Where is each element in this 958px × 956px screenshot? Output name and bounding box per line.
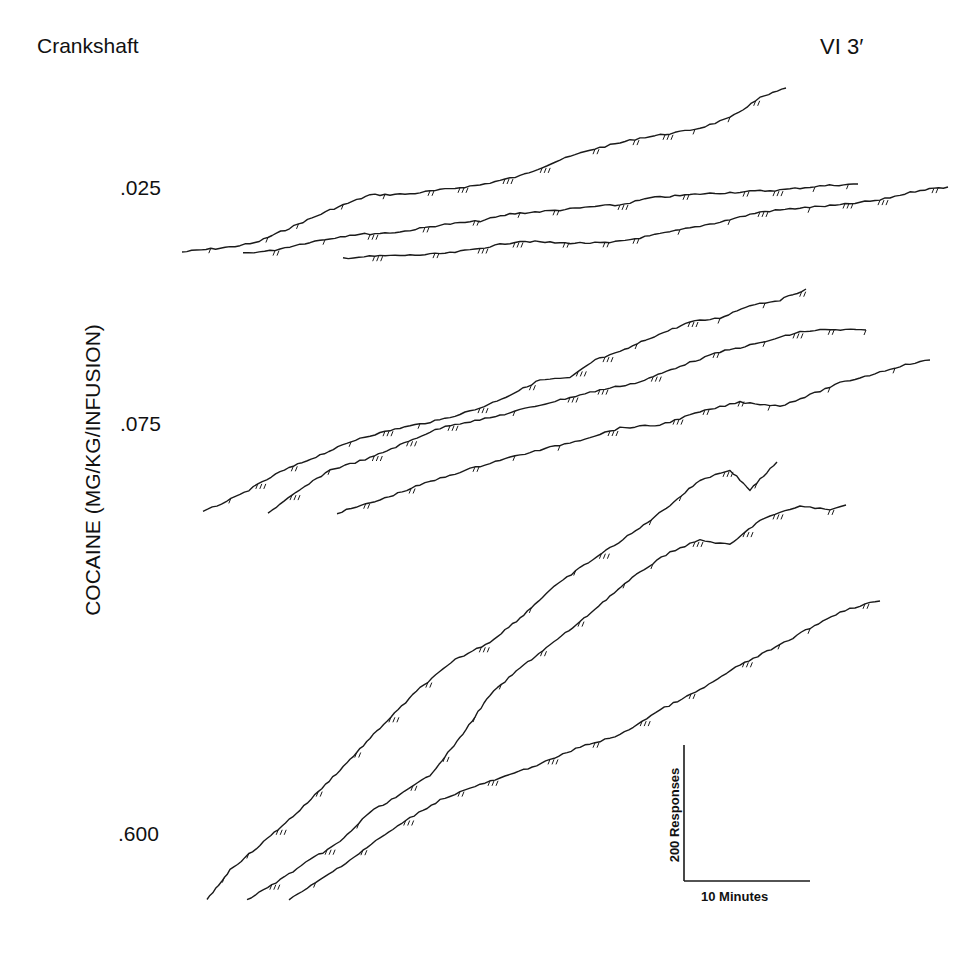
infusion-mark: [687, 195, 689, 200]
infusion-mark: [751, 532, 753, 537]
infusion-mark: [797, 333, 799, 338]
infusion-mark: [677, 420, 679, 425]
infusion-mark: [867, 604, 869, 609]
infusion-mark: [637, 140, 639, 145]
infusion-mark: [486, 408, 488, 413]
dose-label-mid: .075: [120, 412, 161, 436]
record-line: [268, 329, 866, 513]
infusion-mark: [768, 406, 770, 411]
record-line: [207, 462, 777, 900]
infusion-mark: [612, 431, 614, 436]
infusion-mark: [936, 188, 938, 193]
infusion-mark: [637, 239, 639, 244]
infusion-mark: [758, 101, 760, 106]
infusion-mark: [763, 303, 765, 308]
infusion-mark: [701, 542, 703, 547]
infusion-mark: [556, 759, 558, 764]
infusion-mark: [718, 319, 720, 324]
infusion-mark: [329, 850, 331, 855]
infusion-mark: [671, 135, 673, 140]
infusion-mark: [365, 850, 367, 855]
infusion-mark: [412, 821, 414, 826]
infusion-mark: [507, 179, 509, 184]
infusion-mark: [496, 781, 498, 786]
infusion-mark: [558, 446, 560, 451]
infusion-mark: [517, 243, 519, 248]
infusion-mark: [545, 651, 547, 656]
infusion-mark: [697, 542, 699, 547]
infusion-mark: [882, 200, 884, 205]
infusion-mark: [576, 398, 578, 403]
infusion-mark: [781, 514, 783, 519]
infusion-mark: [320, 792, 322, 797]
infusion-mark: [397, 717, 399, 722]
infusion-mark: [377, 256, 379, 261]
infusion-mark: [626, 205, 628, 210]
infusion-mark: [483, 647, 485, 652]
infusion-mark: [284, 830, 286, 835]
infusion-mark: [411, 441, 413, 446]
infusion-mark: [552, 759, 554, 764]
infusion-mark: [616, 431, 618, 436]
infusion-mark: [486, 249, 488, 254]
infusion-mark: [427, 227, 429, 232]
infusion-mark: [766, 212, 768, 217]
infusion-mark: [603, 554, 605, 559]
infusion-mark: [295, 466, 297, 471]
infusion-mark: [333, 850, 335, 855]
infusion-mark: [278, 885, 280, 890]
infusion-mark: [717, 353, 719, 358]
infusion-mark: [264, 484, 266, 489]
infusion-mark: [707, 410, 709, 415]
cumulative-records-chart: [0, 0, 958, 956]
infusion-mark: [380, 456, 382, 461]
infusion-mark: [432, 191, 434, 196]
infusion-mark: [602, 390, 604, 395]
record-line: [343, 187, 948, 259]
infusion-mark: [606, 390, 608, 395]
schedule-label: VI 3′: [820, 34, 863, 60]
infusion-mark: [781, 191, 783, 196]
infusion-mark: [750, 662, 752, 667]
infusion-mark: [622, 205, 624, 210]
infusion-mark: [280, 830, 282, 835]
record-line: [203, 289, 806, 511]
infusion-mark: [482, 249, 484, 254]
infusion-mark: [393, 717, 395, 722]
infusion-mark: [277, 251, 279, 256]
scale-bar-vertical-label: 200 Responses: [667, 768, 682, 863]
record-line: [182, 88, 786, 252]
infusion-mark: [408, 821, 410, 826]
infusion-mark: [607, 554, 609, 559]
infusion-mark: [808, 208, 810, 213]
infusion-mark: [415, 786, 417, 791]
infusion-mark: [746, 662, 748, 667]
infusion-mark: [533, 385, 535, 390]
infusion-mark: [667, 135, 669, 140]
infusion-mark: [548, 168, 550, 173]
record-line: [243, 184, 858, 253]
infusion-mark: [482, 408, 484, 413]
records-group: [182, 88, 948, 900]
infusion-mark: [462, 188, 464, 193]
infusion-mark: [644, 721, 646, 726]
infusion-mark: [466, 188, 468, 193]
infusion-mark: [456, 426, 458, 431]
infusion-mark: [376, 456, 378, 461]
infusion-mark: [648, 721, 650, 726]
y-axis-label: COCAINE (MG/KG/INFUSION): [81, 324, 105, 616]
infusion-mark: [681, 420, 683, 425]
dose-label-low: .025: [120, 176, 161, 200]
infusion-mark: [655, 377, 657, 382]
infusion-mark: [773, 191, 775, 196]
infusion-mark: [828, 510, 830, 515]
infusion-mark: [544, 168, 546, 173]
infusion-mark: [572, 398, 574, 403]
infusion-mark: [294, 495, 296, 500]
infusion-mark: [359, 753, 361, 758]
infusion-mark: [387, 431, 389, 436]
subject-title: Crankshaft: [37, 34, 139, 58]
infusion-mark: [415, 441, 417, 446]
infusion-mark: [447, 757, 449, 762]
dose-label-high: .600: [118, 822, 159, 846]
